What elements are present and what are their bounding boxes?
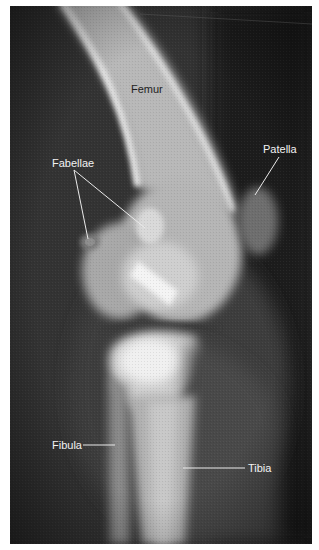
- patella-label: Patella: [263, 143, 297, 155]
- knee-radiograph: Femur Fabellae Patella Fibula Tibia: [10, 6, 312, 544]
- femur-label: Femur: [131, 83, 163, 95]
- tibia-label: Tibia: [248, 462, 271, 474]
- fibula-label: Fibula: [52, 439, 82, 451]
- fabellae-label: Fabellae: [52, 157, 94, 169]
